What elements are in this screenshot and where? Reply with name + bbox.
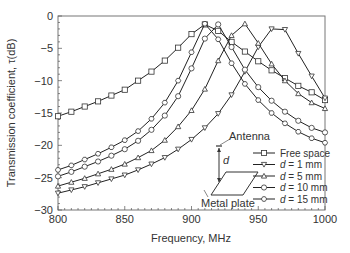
down-triangle-marker [162,156,167,161]
up-triangle-marker [309,100,314,105]
hexagon-marker [95,151,100,156]
legend-label: d = 10 mm [280,182,328,193]
distance-label: d [223,154,230,166]
circle-marker [242,67,247,72]
up-triangle-marker [189,108,194,113]
legend-label: d = 1 mm [280,159,322,170]
legend-item: d = 15 mm [253,194,328,205]
circle-marker [95,159,100,164]
up-triangle-marker [269,61,274,66]
hexagon-marker [162,100,167,105]
circle-marker [202,36,207,41]
legend: Free spaced = 1 mmd = 5 mmd = 10 mmd = 1… [253,148,330,205]
y-tick-label: −20 [34,139,53,151]
transmission-chart: 80085090095010000−5−10−15−20−25−30 Anten… [0,0,350,253]
circle-marker [109,153,114,158]
x-tick-label: 850 [116,213,134,225]
hexagon-marker [202,22,207,27]
square-marker [296,83,301,88]
down-triangle-marker [55,191,60,196]
y-tick-label: −15 [34,107,53,119]
up-triangle-marker [136,155,141,160]
hexagon-marker [149,117,154,122]
x-tick-label: 1000 [313,213,337,225]
circle-marker [261,185,266,190]
metal-plate-label: Metal plate [201,197,255,209]
circle-marker [229,44,234,49]
arrow-head-up-icon [217,148,221,152]
square-marker [136,78,141,83]
down-triangle-marker [296,51,301,56]
hexagon-marker [55,168,60,173]
circle-marker [136,138,141,143]
square-marker [162,58,167,63]
square-marker [256,59,261,64]
circle-marker [309,125,314,130]
circle-marker [149,127,154,132]
hexagon-marker [136,129,141,134]
metal-plate-shape [211,172,258,195]
hexagon-marker [309,136,314,141]
square-marker [269,68,274,73]
hexagon-marker [216,37,221,42]
antenna-label: Antenna [229,130,271,142]
x-tick-label: 950 [249,213,267,225]
legend-item: Free space [253,148,330,159]
circle-marker [55,174,60,179]
hexagon-marker [296,130,301,135]
hexagon-marker [69,163,74,168]
circle-marker [322,130,327,135]
x-axis-label: Frequency, MHz [151,232,231,244]
x-tick-label: 900 [182,213,200,225]
y-tick-label: −10 [34,75,53,87]
square-marker [216,28,221,33]
hexagon-marker [176,78,181,83]
circle-marker [269,98,274,103]
up-triangle-marker [216,58,221,63]
square-marker [189,32,194,37]
square-marker [82,104,87,109]
square-marker [176,45,181,50]
square-marker [69,109,74,114]
circle-marker [296,118,301,123]
hexagon-marker [256,98,261,103]
legend-item: d = 5 mm [253,171,322,182]
y-tick-label: −30 [34,204,53,216]
hexagon-marker [242,82,247,87]
square-marker [149,69,154,74]
plate-leader-line [204,190,208,197]
up-triangle-marker [202,86,207,91]
square-marker [261,150,266,155]
circle-marker [176,94,181,99]
circle-marker [189,66,194,71]
hexagon-marker [269,111,274,116]
circle-marker [122,147,127,152]
hexagon-marker [322,140,327,145]
square-marker [122,87,127,92]
square-marker [309,90,314,95]
circle-marker [82,164,87,169]
legend-item: d = 10 mm [253,182,328,193]
up-triangle-marker [122,161,127,166]
legend-label: d = 15 mm [280,194,328,205]
y-tick-label: −25 [34,172,53,184]
hexagon-marker [122,138,127,143]
antenna-inset-diagram: Antenna d Metal plate [201,130,271,209]
y-tick-label: −5 [40,42,53,54]
legend-label: Free space [280,148,330,159]
hexagon-marker [109,145,114,150]
hexagon-marker [229,61,234,66]
hexagon-marker [189,50,194,55]
y-axis-label: Transmission coefficient, τ(dB) [5,39,17,188]
square-marker [109,93,114,98]
legend-label: d = 5 mm [280,171,322,182]
hexagon-marker [282,121,287,126]
y-tick-label: 0 [47,10,53,22]
down-triangle-marker [176,147,181,152]
down-triangle-marker [309,74,314,79]
circle-marker [256,85,261,90]
square-marker [95,99,100,104]
legend-item: d = 1 mm [253,159,322,170]
square-marker [55,114,60,119]
up-triangle-marker [242,21,247,26]
